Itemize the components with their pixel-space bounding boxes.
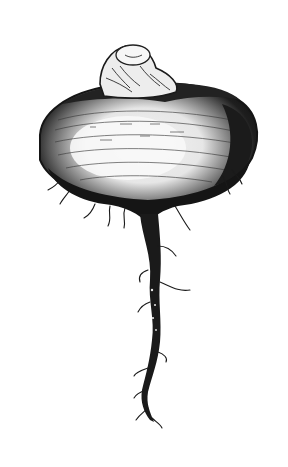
bulb — [40, 83, 257, 224]
crown — [100, 45, 177, 98]
illustration-canvas — [0, 0, 288, 467]
turnip-illustration — [0, 0, 288, 467]
